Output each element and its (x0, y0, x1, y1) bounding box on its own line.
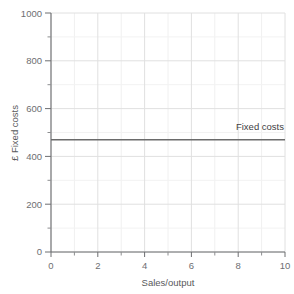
x-tick-label: 0 (48, 260, 53, 271)
y-tick-label: 1000 (21, 8, 42, 19)
y-tick-label: 400 (26, 151, 42, 162)
x-tick-label: 6 (189, 260, 194, 271)
x-tick-label: 4 (142, 260, 147, 271)
fixed-costs-chart: 0 200 400 600 800 1000 (0, 0, 294, 294)
y-tick-label: 200 (26, 199, 42, 210)
x-tick-label: 8 (236, 260, 241, 271)
chart-background (0, 0, 294, 294)
chart-canvas: 0 200 400 600 800 1000 (0, 0, 294, 294)
y-axis-title: £ Fixed costs (9, 105, 20, 161)
x-axis-title: Sales/output (142, 277, 195, 288)
y-tick-label: 600 (26, 103, 42, 114)
fixed-costs-annotation: Fixed costs (236, 121, 284, 132)
y-tick-label: 800 (26, 55, 42, 66)
x-tick-label: 10 (280, 260, 291, 271)
x-tick-label: 2 (95, 260, 100, 271)
y-tick-label: 0 (37, 246, 42, 257)
